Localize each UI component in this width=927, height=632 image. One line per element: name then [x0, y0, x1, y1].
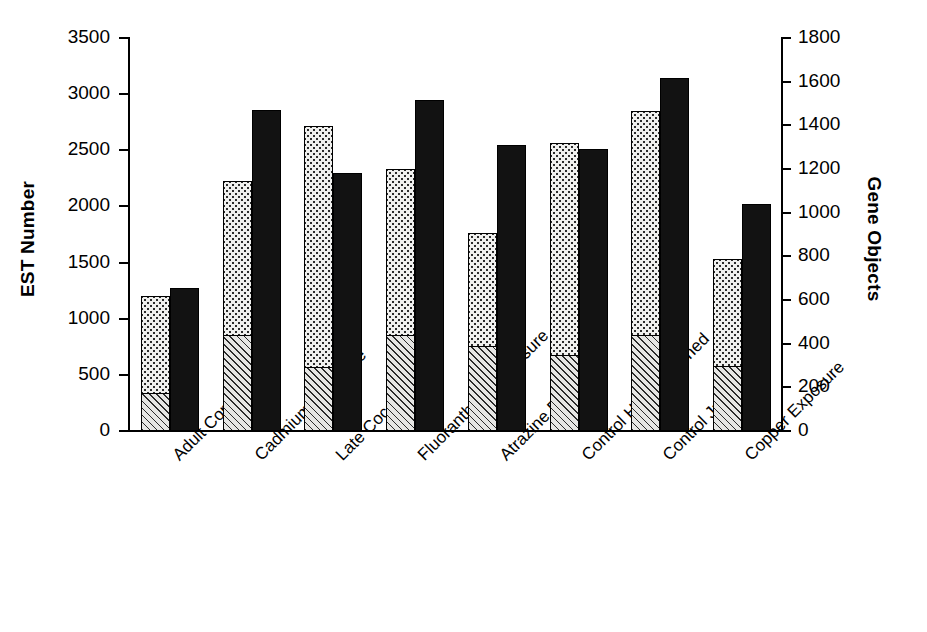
y-axis-left-tick	[119, 93, 129, 95]
bar-est-dotted-segment	[713, 259, 742, 367]
y-axis-right-tick	[781, 212, 791, 214]
bar-gene-objects	[660, 78, 689, 431]
bar-gene-objects	[333, 173, 362, 431]
y-axis-right-tick	[781, 343, 791, 345]
y-axis-right-tick	[781, 168, 791, 170]
x-axis-category-label: Atrazine Exposure	[496, 451, 510, 465]
y-axis-right-tick-label: 400	[798, 333, 864, 352]
y-axis-left-tick-label: 3000	[44, 83, 110, 102]
y-axis-right-tick	[781, 37, 791, 39]
y-axis-right-tick-label: 0	[798, 420, 864, 439]
x-axis-category-label: Control Head Enriched	[578, 451, 592, 465]
bar-est-dotted-segment	[386, 169, 415, 335]
y-axis-left-tick-label: 0	[44, 420, 110, 439]
y-axis-left-tick-label: 500	[44, 364, 110, 383]
y-axis-right-tick-label: 800	[798, 245, 864, 264]
y-axis-right-title: Gene Objects	[863, 159, 885, 319]
bar-est-dotted-segment	[631, 111, 660, 336]
y-axis-right-tick-label: 600	[798, 289, 864, 308]
bar-gene-objects	[497, 145, 526, 431]
y-axis-left-line	[128, 37, 130, 431]
bar-est-dotted-segment	[141, 296, 170, 394]
y-axis-left-tick	[119, 430, 129, 432]
bar-est-hatched-segment	[223, 335, 252, 431]
y-axis-left-tick	[119, 374, 129, 376]
bar-est-hatched-segment	[304, 367, 333, 431]
y-axis-right-tick	[781, 255, 791, 257]
bar-gene-objects	[252, 110, 281, 431]
x-axis-category-label: Cadmium Exposure	[251, 451, 265, 465]
bar-est-hatched-segment	[713, 366, 742, 431]
bar-est-dotted-segment	[304, 126, 333, 368]
bar-est-hatched-segment	[141, 393, 170, 431]
x-axis-category-label: Adult Control	[169, 451, 183, 465]
bar-est-hatched-segment	[386, 335, 415, 431]
y-axis-left-tick-label: 2000	[44, 195, 110, 214]
x-axis-category-label: Fluoranthene Exposure	[414, 451, 428, 465]
y-axis-left-tick	[119, 37, 129, 39]
bar-est-hatched-segment	[631, 335, 660, 431]
y-axis-left-tick-label: 1500	[44, 252, 110, 271]
bar-gene-objects	[579, 149, 608, 431]
bar-gene-objects	[415, 100, 444, 431]
bar-gene-objects	[170, 288, 199, 431]
y-axis-left-tick	[119, 262, 129, 264]
bar-chart: EST Number Gene Objects 0500100015002000…	[0, 0, 927, 632]
y-axis-right-tick-label: 1800	[798, 27, 864, 46]
y-axis-left-tick-label: 2500	[44, 139, 110, 158]
bar-est-hatched-segment	[550, 355, 579, 431]
bar-est-dotted-segment	[223, 181, 252, 335]
bar-est-dotted-segment	[550, 143, 579, 356]
y-axis-left-tick	[119, 318, 129, 320]
y-axis-right-tick	[781, 81, 791, 83]
y-axis-right-tick-label: 1200	[798, 158, 864, 177]
x-axis-category-label: Copper Exposure	[741, 451, 755, 465]
bar-est-dotted-segment	[468, 233, 497, 347]
y-axis-left-tick	[119, 205, 129, 207]
y-axis-right-tick	[781, 299, 791, 301]
y-axis-right-tick	[781, 124, 791, 126]
bar-gene-objects	[742, 204, 771, 431]
y-axis-right-line	[781, 37, 783, 431]
bar-est-hatched-segment	[468, 346, 497, 431]
y-axis-left-tick	[119, 149, 129, 151]
x-axis-category-label: Late Cocoon	[332, 451, 346, 465]
y-axis-right-tick-label: 1400	[798, 114, 864, 133]
y-axis-left-tick-label: 1000	[44, 308, 110, 327]
y-axis-right-tick-label: 1600	[798, 71, 864, 90]
y-axis-left-tick-label: 3500	[44, 27, 110, 46]
y-axis-right-tick-label: 1000	[798, 202, 864, 221]
y-axis-left-title: EST Number	[17, 159, 39, 319]
x-axis-category-label: Control Juvenile	[659, 451, 673, 465]
y-axis-right-tick	[781, 386, 791, 388]
